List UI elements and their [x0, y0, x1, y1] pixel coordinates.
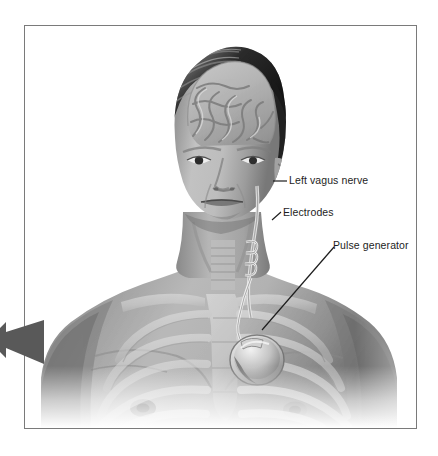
illustration-svg	[25, 26, 416, 428]
anatomy-trachea	[211, 240, 235, 290]
margin-arrow-icon	[0, 318, 44, 368]
callout-label-pulse-generator: Pulse generator	[333, 239, 409, 251]
callout-label-left-vagus-nerve: Left vagus nerve	[289, 174, 368, 186]
anatomy-ear	[274, 158, 287, 194]
callout-label-electrodes: Electrodes	[283, 206, 334, 218]
medical-illustration	[25, 26, 416, 428]
figure-root: Left vagus nerve Electrodes Pulse genera…	[0, 0, 438, 456]
anatomy-head	[166, 39, 295, 222]
